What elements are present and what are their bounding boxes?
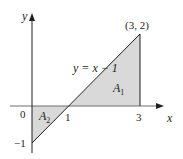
tick-label-origin: 0 (20, 108, 26, 120)
y-axis-label: y (21, 9, 28, 23)
x-axis-label: x (166, 111, 173, 125)
x-axis-arrow-icon (156, 103, 164, 109)
y-axis-arrow-icon (29, 13, 35, 21)
tick-label-x3: 3 (136, 111, 142, 123)
diagram-canvas: y x 0 1 3 −1 (3, 2) y = x − 1 A1 A2 (0, 0, 183, 159)
area-diagram: y x 0 1 3 −1 (3, 2) y = x − 1 A1 A2 (0, 0, 183, 159)
equation-label: y = x − 1 (72, 61, 118, 75)
tick-label-yneg1: −1 (14, 137, 26, 149)
tick-label-x1: 1 (65, 111, 71, 123)
point-label: (3, 2) (125, 19, 149, 32)
